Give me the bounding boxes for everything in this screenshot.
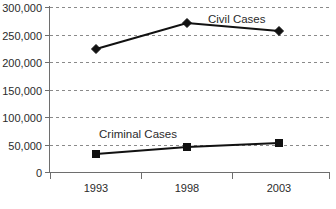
criminal-cases-marker-1993	[93, 151, 100, 158]
x-tick-labels: 1993 1998 2003	[84, 182, 291, 194]
y-tick-label-0: 0	[36, 167, 42, 179]
chart-canvas: 300,000 250,000 200,000 150,000 100,000 …	[0, 0, 336, 209]
series-criminal-cases	[93, 140, 283, 158]
y-tick-label-150000: 150,000	[2, 85, 42, 97]
civil-cases-marker-1998	[183, 19, 192, 28]
criminal-cases-marker-2003	[276, 140, 283, 147]
y-tick-label-50000: 50,000	[8, 140, 42, 152]
y-axis	[45, 6, 50, 173]
criminal-cases-marker-1998	[184, 144, 191, 151]
x-tick-label-2003: 2003	[267, 182, 291, 194]
x-tick-label-1993: 1993	[84, 182, 108, 194]
series-annotations: Civil Cases Criminal Cases	[99, 13, 266, 140]
y-tick-label-100000: 100,000	[2, 112, 42, 124]
x-tick-label-1998: 1998	[175, 182, 199, 194]
criminal-cases-annotation: Criminal Cases	[99, 128, 177, 140]
civil-cases-marker-2003	[275, 27, 284, 36]
gridlines	[50, 8, 330, 146]
y-tick-label-300000: 300,000	[2, 2, 42, 14]
civil-cases-annotation: Civil Cases	[208, 13, 266, 25]
line-chart: 300,000 250,000 200,000 150,000 100,000 …	[0, 0, 336, 209]
civil-cases-marker-1993	[92, 45, 101, 54]
y-tick-label-200000: 200,000	[2, 57, 42, 69]
y-tick-labels: 300,000 250,000 200,000 150,000 100,000 …	[2, 2, 42, 179]
x-axis	[49, 172, 330, 179]
y-tick-label-250000: 250,000	[2, 30, 42, 42]
